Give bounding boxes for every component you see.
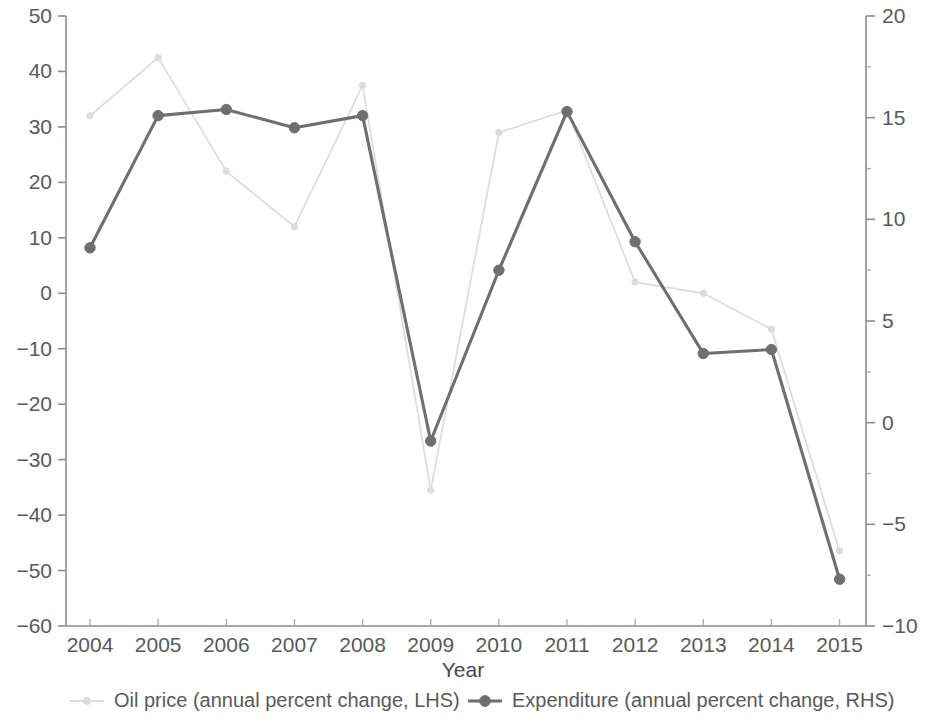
left-axis-tick-label: −40 xyxy=(16,503,52,526)
x-axis-tick-label: 2007 xyxy=(271,633,318,656)
left-axis-tick-label: −50 xyxy=(16,559,52,582)
x-axis-tick-label: 2013 xyxy=(680,633,727,656)
data-point xyxy=(426,436,436,446)
x-axis-tick-label: 2008 xyxy=(339,633,386,656)
left-axis-tick-label: 0 xyxy=(40,281,52,304)
right-axis-tick-label: 10 xyxy=(882,207,905,230)
data-point xyxy=(766,344,776,354)
series-layer xyxy=(85,54,845,584)
data-point xyxy=(85,243,95,253)
legend-item-label: Oil price (annual percent change, LHS) xyxy=(114,689,460,711)
data-point xyxy=(289,123,299,133)
left-axis-tick-label: 10 xyxy=(29,226,52,249)
data-point xyxy=(223,168,229,174)
right-axis-tick-label: 15 xyxy=(882,106,905,129)
series-oil-price xyxy=(87,54,843,554)
chart-figure: 50403020100−10−20−30−40−50−60 20151050−5… xyxy=(0,0,926,721)
data-point xyxy=(632,279,638,285)
x-axis-title: Year xyxy=(442,658,484,681)
x-axis-tick-label: 2005 xyxy=(135,633,182,656)
x-axis-tick-label: 2014 xyxy=(748,633,795,656)
left-axis: 50403020100−10−20−30−40−50−60 xyxy=(16,4,66,637)
data-point xyxy=(494,265,504,275)
right-axis-tick-label: 0 xyxy=(882,411,894,434)
left-axis-tick-label: 30 xyxy=(29,115,52,138)
x-axis-tick-label: 2012 xyxy=(612,633,659,656)
left-axis-tick-label: 40 xyxy=(29,59,52,82)
line-chart: 50403020100−10−20−30−40−50−60 20151050−5… xyxy=(0,0,926,721)
data-point xyxy=(359,82,365,88)
data-point xyxy=(221,104,231,114)
data-point xyxy=(562,106,572,116)
data-point xyxy=(630,237,640,247)
legend-marker-dot xyxy=(480,696,491,707)
left-axis-tick-label: −20 xyxy=(16,392,52,415)
data-point xyxy=(768,326,774,332)
x-axis-tick-label: 2009 xyxy=(407,633,454,656)
legend-marker-dot xyxy=(83,697,90,704)
x-axis: 2004200520062007200820092010201120122013… xyxy=(66,619,866,656)
data-point xyxy=(87,113,93,119)
right-axis-tick-label: −5 xyxy=(882,512,906,535)
left-axis-tick-label: 20 xyxy=(29,170,52,193)
right-axis-tick-label: 5 xyxy=(882,309,894,332)
data-point xyxy=(153,110,163,120)
chart-legend: Oil price (annual percent change, LHS)Ex… xyxy=(70,689,894,711)
right-axis-tick-label: −10 xyxy=(882,614,918,637)
series-line xyxy=(90,110,840,580)
data-point xyxy=(291,224,297,230)
left-axis-tick-label: 50 xyxy=(29,4,52,27)
x-axis-tick-label: 2015 xyxy=(816,633,863,656)
series-line xyxy=(90,58,840,551)
x-axis-tick-label: 2004 xyxy=(67,633,114,656)
legend-item-expenditure: Expenditure (annual percent change, RHS) xyxy=(468,689,894,711)
data-point xyxy=(834,574,844,584)
legend-item-oil-price: Oil price (annual percent change, LHS) xyxy=(70,689,460,711)
x-axis-tick-label: 2011 xyxy=(544,633,589,656)
x-axis-tick-label: 2010 xyxy=(475,633,522,656)
data-point xyxy=(357,110,367,120)
left-axis-tick-label: −30 xyxy=(16,448,52,471)
left-axis-tick-label: −10 xyxy=(16,337,52,360)
data-point xyxy=(698,348,708,358)
right-axis-tick-label: 20 xyxy=(882,4,905,27)
data-point xyxy=(700,290,706,296)
legend-item-label: Expenditure (annual percent change, RHS) xyxy=(512,689,894,711)
data-point xyxy=(155,54,161,60)
left-axis-tick-label: −60 xyxy=(16,614,52,637)
x-axis-tick-label: 2006 xyxy=(203,633,250,656)
data-point xyxy=(496,129,502,135)
series-expenditure xyxy=(85,104,845,584)
data-point xyxy=(428,487,434,493)
right-axis: 20151050−5−10 xyxy=(866,4,918,637)
data-point xyxy=(836,548,842,554)
